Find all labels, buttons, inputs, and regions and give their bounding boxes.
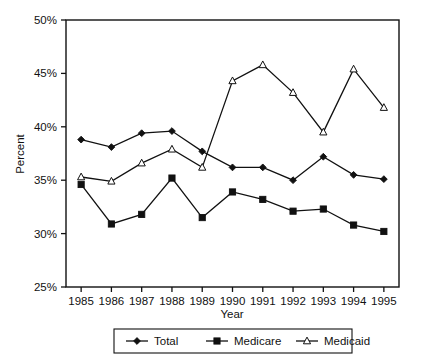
data-point-medicare-1995: [381, 228, 387, 234]
y-tick-label: 30%: [34, 228, 57, 240]
x-tick-label: 1988: [159, 295, 185, 307]
x-tick-label: 1987: [129, 295, 155, 307]
x-tick-label: 1990: [220, 295, 246, 307]
data-point-medicare-1985: [78, 181, 84, 187]
legend-items: TotalMedicareMedicaid: [126, 335, 370, 347]
data-point-medicaid-1988: [168, 145, 175, 152]
data-point-medicaid-1994: [350, 65, 357, 72]
series-line-medicare: [81, 178, 384, 231]
data-point-medicare-1991: [260, 196, 266, 202]
x-tick-label: 1985: [68, 295, 94, 307]
x-axis-ticks: [81, 287, 384, 292]
x-axis-title: Year: [220, 308, 243, 320]
legend-marker-medicare: [214, 338, 220, 344]
data-point-medicare-1990: [229, 189, 235, 195]
x-tick-label: 1993: [311, 295, 337, 307]
x-tick-label: 1995: [371, 295, 397, 307]
data-point-total-1991: [259, 164, 266, 171]
y-tick-label: 35%: [34, 174, 57, 186]
y-tick-label: 40%: [34, 121, 57, 133]
x-tick-label: 1992: [280, 295, 306, 307]
data-point-total-1990: [229, 164, 236, 171]
data-point-medicare-1992: [290, 208, 296, 214]
series-markers-group: [78, 61, 388, 235]
legend-label-medicare: Medicare: [234, 335, 281, 347]
legend-label-total: Total: [154, 335, 178, 347]
data-point-medicare-1993: [320, 206, 326, 212]
x-tick-label: 1994: [341, 295, 367, 307]
data-point-total-1987: [138, 130, 145, 137]
line-chart: 50%45%40%35%30%25% 198519861987198819891…: [0, 0, 426, 360]
data-point-total-1985: [78, 136, 85, 143]
data-point-medicaid-1985: [78, 173, 85, 180]
x-tick-label: 1991: [250, 295, 276, 307]
y-tick-label: 50%: [34, 14, 57, 26]
chart-canvas: 50%45%40%35%30%25% 198519861987198819891…: [0, 0, 426, 360]
legend-marker-total: [134, 338, 141, 345]
data-point-medicaid-1990: [229, 77, 236, 84]
data-point-total-1988: [169, 128, 176, 135]
legend-label-medicaid: Medicaid: [324, 335, 370, 347]
data-point-medicare-1986: [108, 221, 114, 227]
data-point-total-1995: [380, 176, 387, 183]
y-axis-tick-labels: 50%45%40%35%30%25%: [34, 14, 57, 293]
x-tick-label: 1989: [189, 295, 215, 307]
y-axis-ticks: [61, 20, 66, 287]
plot-area-frame: [66, 20, 399, 287]
data-point-total-1994: [350, 171, 357, 178]
data-point-medicaid-1989: [199, 163, 206, 170]
series-lines-group: [81, 65, 384, 232]
y-tick-label: 45%: [34, 67, 57, 79]
data-point-medicare-1994: [350, 222, 356, 228]
data-point-medicare-1988: [169, 175, 175, 181]
data-point-total-1986: [108, 144, 115, 151]
data-point-medicaid-1991: [259, 61, 266, 68]
x-axis-tick-labels: 1985198619871988198919901991199219931994…: [68, 295, 396, 307]
y-tick-label: 25%: [34, 281, 57, 293]
data-point-medicare-1989: [199, 214, 205, 220]
chart-legend: TotalMedicareMedicaid: [114, 329, 370, 353]
y-axis-title: Percent: [14, 133, 26, 173]
x-tick-label: 1986: [99, 295, 125, 307]
data-point-medicare-1987: [139, 211, 145, 217]
